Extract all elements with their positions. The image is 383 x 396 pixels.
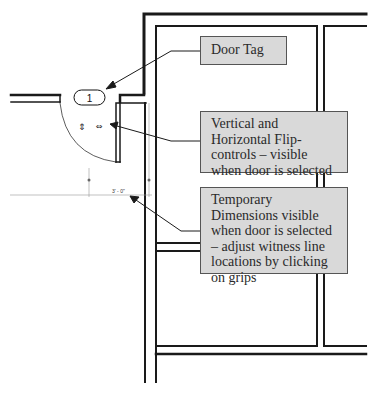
flip-controls-callout-text: Vertical and Horizontal Flip-controls – … [211, 116, 332, 178]
door-swing-arc [60, 103, 116, 162]
horizontal-flip-control-icon[interactable]: ⇔ [96, 122, 103, 131]
flip-controls-callout: Vertical and Horizontal Flip-controls – … [200, 111, 348, 173]
flip-leader [117, 126, 200, 141]
door-tag-callout: Door Tag [200, 36, 287, 65]
door-tag-callout-text: Door Tag [211, 42, 264, 57]
flip-arrowhead [110, 122, 118, 129]
tempdim-arrowhead [130, 196, 139, 203]
temporary-dimensions-callout-text: Temporary Dimensions visible when door i… [211, 192, 332, 285]
door-tag[interactable]: 1 [74, 90, 105, 105]
witness-grip-right[interactable] [148, 179, 151, 182]
temporary-dimensions-callout: Temporary Dimensions visible when door i… [200, 187, 348, 274]
temporary-dimension [10, 103, 152, 197]
vertical-flip-control-icon[interactable]: ⇕ [78, 122, 86, 132]
door-tag-arrowhead [106, 81, 116, 89]
dimension-value[interactable]: 3' - 0" [112, 188, 125, 194]
witness-grip-left[interactable] [88, 179, 91, 182]
door-tag-number: 1 [87, 93, 93, 104]
door-jamb-wall [120, 95, 144, 102]
room-right [324, 26, 366, 345]
